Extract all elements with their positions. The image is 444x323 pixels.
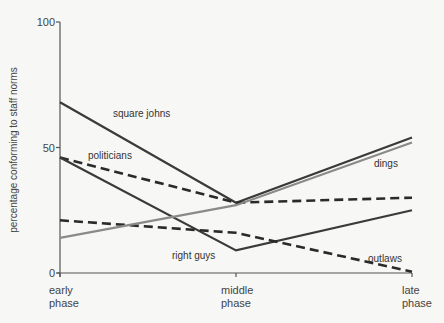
series-line-right-guys — [60, 158, 412, 251]
series-label-outlaws: outlaws — [368, 253, 402, 264]
x-tick-label: early — [49, 284, 73, 296]
x-tick-label: phase — [221, 297, 251, 309]
series-label-dings: dings — [374, 158, 398, 169]
series-line-politicians — [60, 158, 412, 203]
line-chart: 050100 earlyphasemiddlephaselatephase pe… — [0, 0, 444, 323]
y-tick-label: 50 — [43, 142, 55, 154]
x-ticks: earlyphasemiddlephaselatephase — [49, 273, 432, 309]
y-tick-label: 0 — [49, 267, 55, 279]
y-ticks: 050100 — [37, 16, 60, 279]
x-tick-label: late — [402, 284, 420, 296]
series-labels: square johnspoliticiansright guysoutlaws… — [88, 108, 402, 264]
series-label-right-guys: right guys — [172, 250, 215, 261]
x-tick-label: middle — [221, 284, 253, 296]
x-tick-label: phase — [402, 297, 432, 309]
x-tick-label: phase — [49, 297, 79, 309]
y-axis-title: percentage conforming to staff norms — [8, 67, 19, 232]
series-label-politicians: politicians — [88, 150, 132, 161]
series-lines — [60, 102, 412, 271]
series-label-square-johns: square johns — [113, 108, 170, 119]
y-tick-label: 100 — [37, 16, 55, 28]
